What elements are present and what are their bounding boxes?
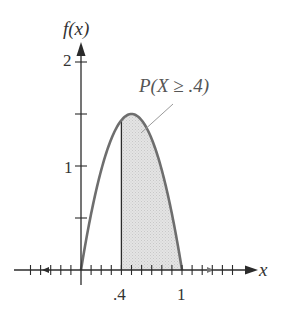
x-tick-label-04: .4 — [113, 285, 126, 305]
probability-annotation: P(X ≥ .4) — [139, 75, 209, 97]
density-plot — [0, 0, 281, 316]
x-tick-label-1: 1 — [177, 285, 186, 305]
y-tick-label-2: 2 — [63, 51, 72, 71]
x-axis-label: x — [259, 259, 267, 281]
y-axis-label: f(x) — [63, 18, 89, 40]
y-tick-label-1: 1 — [64, 158, 73, 178]
